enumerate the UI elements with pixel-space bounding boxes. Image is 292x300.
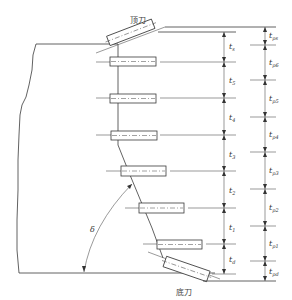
dim-label-tps: tps bbox=[269, 31, 278, 42]
dim-label-tp2: tp2 bbox=[269, 203, 279, 214]
bottom-knife bbox=[148, 252, 220, 283]
top-knife-label: 顶刀 bbox=[130, 16, 146, 25]
workpiece-outline bbox=[17, 44, 215, 273]
dim-label-tp1: tp1 bbox=[269, 239, 279, 250]
dim-label-tp5: tp5 bbox=[269, 94, 279, 105]
dim-label-tp6: tp6 bbox=[269, 58, 279, 69]
dim-label-t3: t3 bbox=[229, 150, 235, 160]
left-dimension-column: ts t5 t4 t3 t2 t1 td bbox=[212, 32, 236, 274]
cutting-layout-diagram: 顶刀 bbox=[0, 0, 292, 300]
dim-label-td: td bbox=[229, 255, 235, 265]
side-knives bbox=[96, 57, 236, 249]
dim-label-tpd: tpd bbox=[269, 267, 279, 278]
dim-label-t5: t5 bbox=[229, 76, 235, 86]
right-dimension-column: tps tp6 tp5 tp4 tp3 tp2 tp1 tpd bbox=[250, 27, 279, 281]
dim-label-tp3: tp3 bbox=[269, 166, 279, 177]
bottom-knife-label: 底刀 bbox=[176, 287, 192, 297]
dim-label-ts: ts bbox=[229, 42, 235, 52]
dim-label-tp4: tp4 bbox=[269, 130, 279, 141]
angle-delta-label: δ bbox=[90, 225, 95, 234]
dim-label-t2: t2 bbox=[229, 186, 235, 196]
dim-label-t1: t1 bbox=[229, 223, 235, 233]
dim-label-t4: t4 bbox=[229, 113, 235, 123]
cut-profile bbox=[118, 44, 163, 258]
